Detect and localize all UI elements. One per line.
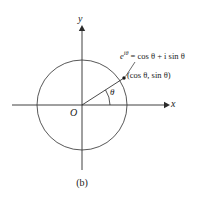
x-axis — [12, 102, 170, 108]
x-axis-label: x — [171, 99, 175, 109]
y-axis — [79, 25, 85, 170]
y-axis-label: y — [78, 14, 82, 24]
point-marker — [122, 76, 125, 79]
euler-formula-label: eiθ = cos θ + i sin θ — [120, 52, 185, 61]
y-axis-arrowhead — [79, 25, 85, 31]
origin-label: O — [70, 108, 77, 118]
figure-caption: (b) — [76, 178, 88, 188]
euler-formula-figure: y x O θ eiθ = cos θ + i sin θ (cos θ, si… — [0, 0, 221, 197]
figure-canvas — [0, 0, 221, 197]
angle-theta-label: θ — [110, 88, 114, 97]
euler-exponent: iθ — [124, 50, 129, 56]
radius-line — [82, 78, 124, 105]
point-coordinates-label: (cos θ, sin θ) — [127, 71, 171, 80]
x-axis-arrowhead — [164, 102, 170, 108]
euler-remainder: = cos θ + i sin θ — [131, 51, 185, 61]
